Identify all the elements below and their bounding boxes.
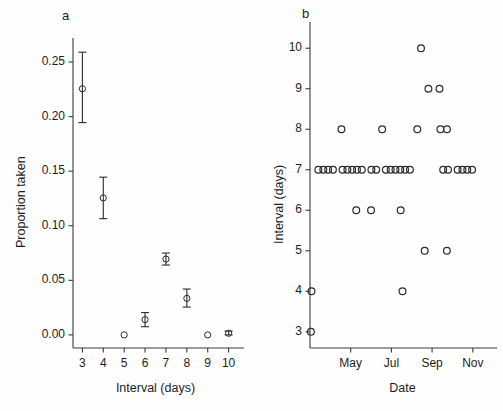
panel-a-y-tick-label: 0.00 — [0, 327, 65, 341]
panel-a-y-tick-label: 0.25 — [0, 54, 65, 68]
panel-a-y-tick-label: 0.15 — [0, 163, 65, 177]
data-point-marker — [421, 247, 428, 254]
panel-b-y-tick-label: 6 — [258, 202, 302, 216]
data-point-marker — [425, 85, 432, 92]
panel-b: b Date Interval (days) 345678910MayJulSe… — [258, 0, 503, 411]
panel-b-y-tick-label: 8 — [258, 121, 302, 135]
panel-a: a Interval (days) Proportion taken 0.000… — [0, 0, 258, 411]
figure-panel-container: a Interval (days) Proportion taken 0.000… — [0, 0, 503, 411]
data-point-marker — [469, 166, 476, 173]
data-point-marker — [330, 166, 337, 173]
panel-a-y-tick-label: 0.05 — [0, 272, 65, 286]
data-point-marker — [358, 166, 365, 173]
panel-b-x-axis-title: Date — [333, 381, 473, 395]
data-point-marker — [397, 207, 404, 214]
data-point-marker — [444, 126, 451, 133]
panel-b-y-tick-label: 7 — [258, 162, 302, 176]
panel-a-x-tick-label: 10 — [199, 356, 259, 370]
panel-b-y-tick-label: 5 — [258, 243, 302, 257]
panel-b-x-tick-label: Nov — [443, 356, 503, 370]
data-point-marker — [407, 166, 414, 173]
panel-a-y-tick-label: 0.20 — [0, 109, 65, 123]
data-point-marker — [121, 332, 127, 338]
data-point-marker — [418, 45, 425, 52]
panel-a-x-axis-title: Interval (days) — [86, 381, 226, 395]
data-point-marker — [368, 207, 375, 214]
panel-b-y-tick-label: 3 — [258, 324, 302, 338]
panel-b-y-tick-label: 10 — [258, 40, 302, 54]
panel-b-y-tick-label: 4 — [258, 283, 302, 297]
panel-a-y-tick-label: 0.10 — [0, 218, 65, 232]
data-point-marker — [353, 207, 360, 214]
data-point-marker — [373, 166, 380, 173]
data-point-marker — [399, 288, 406, 295]
data-point-marker — [338, 126, 345, 133]
data-point-marker — [205, 332, 211, 338]
data-point-marker — [436, 85, 443, 92]
data-point-marker — [445, 166, 452, 173]
panel-b-y-tick-label: 9 — [258, 81, 302, 95]
data-point-marker — [444, 247, 451, 254]
data-point-marker — [379, 126, 386, 133]
data-point-marker — [414, 126, 421, 133]
data-point-marker — [437, 126, 444, 133]
